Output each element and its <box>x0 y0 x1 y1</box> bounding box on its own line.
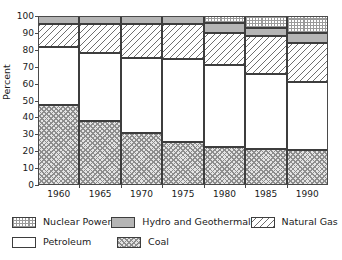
legend-row: Nuclear PowerHydro and GeothermalNatural… <box>12 212 334 232</box>
bar-segment <box>204 147 245 185</box>
y-tick-label: 100 <box>17 12 34 21</box>
legend-item-nuclear-power[interactable]: Nuclear Power <box>12 217 111 228</box>
bar-segment <box>245 149 286 185</box>
legend-label: Coal <box>148 237 169 247</box>
bar-segment <box>121 16 162 24</box>
legend-label: Hydro and Geothermal <box>142 217 250 227</box>
legend-label: Natural Gas <box>282 217 338 227</box>
bar-segment <box>287 82 328 150</box>
bar-segment <box>38 24 79 47</box>
legend-label: Petroleum <box>43 237 91 247</box>
y-tick-label: 50 <box>23 96 34 105</box>
bar-segment <box>287 150 328 185</box>
chart-legend: Nuclear PowerHydro and GeothermalNatural… <box>12 212 334 252</box>
legend-swatch-icon <box>111 217 135 228</box>
y-tick-label: 70 <box>23 62 34 71</box>
legend-label: Nuclear Power <box>43 217 111 227</box>
bar-group-1960 <box>38 16 79 185</box>
bar-segment <box>162 142 203 185</box>
y-tick-label: 0 <box>28 181 34 190</box>
legend-item-hydro-and-geothermal[interactable]: Hydro and Geothermal <box>111 217 250 228</box>
bar-segment <box>38 105 79 185</box>
bar-segment <box>245 74 286 148</box>
plot-area: 0102030405060708090100 19601965197019751… <box>38 16 328 185</box>
legend-item-coal[interactable]: Coal <box>117 237 307 248</box>
bar-group-1980 <box>204 16 245 185</box>
bar-segment <box>162 59 203 142</box>
y-tick-label: 60 <box>23 79 34 88</box>
bar-segment <box>162 24 203 59</box>
legend-swatch-icon <box>12 237 36 248</box>
bar-segment <box>287 33 328 43</box>
bar-segment <box>162 16 203 24</box>
legend-item-petroleum[interactable]: Petroleum <box>12 237 117 248</box>
x-tick-label: 1965 <box>89 190 112 199</box>
x-tick-mark <box>245 185 246 188</box>
x-tick-mark <box>162 185 163 188</box>
legend-row: PetroleumCoal <box>12 232 334 252</box>
x-tick-mark <box>121 185 122 188</box>
bar-segment <box>287 43 328 82</box>
y-tick-label: 10 <box>23 164 34 173</box>
legend-swatch-icon <box>117 237 141 248</box>
bar-segment <box>79 16 120 24</box>
x-tick-mark <box>204 185 205 188</box>
y-tick-label: 80 <box>23 45 34 54</box>
bar-segment <box>121 58 162 133</box>
y-tick-label: 40 <box>23 113 34 122</box>
stacked-bar-chart-figure: Percent 0102030405060708090100 196019651… <box>0 0 342 260</box>
bar-segment <box>204 23 245 33</box>
bar-segment <box>79 121 120 185</box>
legend-swatch-icon <box>12 217 36 228</box>
bar-segment <box>245 16 286 28</box>
bar-group-1990 <box>287 16 328 185</box>
bar-segment <box>121 133 162 185</box>
bar-segment <box>79 53 120 121</box>
x-tick-mark <box>287 185 288 188</box>
bar-segment <box>204 33 245 65</box>
x-tick-label: 1980 <box>213 190 236 199</box>
y-axis-label: Percent <box>1 64 12 100</box>
bar-group-1965 <box>79 16 120 185</box>
y-tick-mark <box>35 185 39 186</box>
bar-segment <box>245 36 286 74</box>
bar-segment <box>245 28 286 36</box>
bar-segment <box>204 16 245 23</box>
x-tick-label: 1975 <box>172 190 195 199</box>
legend-swatch-icon <box>251 217 275 228</box>
y-tick-label: 90 <box>23 28 34 37</box>
bar-segment <box>121 24 162 58</box>
bar-group-1970 <box>121 16 162 185</box>
x-tick-label: 1985 <box>254 190 277 199</box>
x-tick-label: 1990 <box>296 190 319 199</box>
bar-segment <box>204 65 245 147</box>
x-tick-mark <box>79 185 80 188</box>
bar-segment <box>79 24 120 53</box>
bar-group-1975 <box>162 16 203 185</box>
x-tick-label: 1960 <box>47 190 70 199</box>
bar-segment <box>287 16 328 33</box>
x-tick-label: 1970 <box>130 190 153 199</box>
bar-group-1985 <box>245 16 286 185</box>
bar-segment <box>38 47 79 104</box>
y-tick-label: 30 <box>23 130 34 139</box>
y-tick-label: 20 <box>23 147 34 156</box>
bar-segment <box>38 16 79 24</box>
legend-item-natural-gas[interactable]: Natural Gas <box>251 217 338 228</box>
